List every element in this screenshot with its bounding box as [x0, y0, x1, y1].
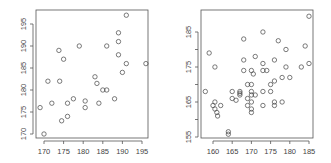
data-point [230, 89, 234, 93]
data-point [280, 75, 284, 79]
data-point [245, 96, 249, 100]
data-point [253, 54, 257, 58]
y-tick-label: 170 [19, 128, 28, 141]
data-point [249, 100, 253, 104]
data-point [57, 79, 61, 83]
data-point [59, 119, 63, 123]
data-point [38, 105, 42, 109]
y-tick-label: 190 [19, 40, 28, 53]
data-point [105, 44, 109, 48]
y-tick-label: 185 [19, 62, 28, 75]
x-tick-label: 165 [226, 147, 239, 156]
y-tick-label: 175 [184, 61, 193, 74]
data-point [276, 39, 280, 43]
x-tick-label: 175 [264, 147, 277, 156]
y-tick-label: 195 [19, 18, 28, 31]
data-point [93, 75, 97, 79]
y-tick-label: 155 [184, 131, 193, 144]
scatter-panel-1: 170175180185190195170175180185190195 [19, 10, 148, 156]
data-point [261, 103, 265, 107]
data-point [116, 31, 120, 35]
scatter-panel-2: 160165170175180185155165175185 [184, 10, 315, 156]
data-point [50, 101, 54, 105]
data-point [144, 61, 148, 65]
data-point [307, 14, 311, 18]
data-point [299, 65, 303, 69]
x-tick-label: 190 [116, 147, 129, 156]
data-point [261, 61, 265, 65]
data-point [272, 79, 276, 83]
data-point [112, 97, 116, 101]
x-tick-label: 170 [38, 147, 51, 156]
data-point [124, 61, 128, 65]
x-tick-label: 185 [97, 147, 110, 156]
y-tick-label: 185 [184, 26, 193, 39]
data-point [245, 103, 249, 107]
y-tick-label: 175 [19, 106, 28, 119]
data-point [42, 132, 46, 136]
data-point [83, 105, 87, 109]
data-point [303, 44, 307, 48]
data-point [242, 68, 246, 72]
data-point [261, 89, 265, 93]
x-tick-label: 170 [245, 147, 258, 156]
y-tick-label: 180 [19, 84, 28, 97]
data-point [95, 81, 99, 85]
data-point [203, 89, 207, 93]
x-tick-label: 180 [77, 147, 90, 156]
data-point [261, 30, 265, 34]
data-point [57, 48, 61, 52]
data-point [234, 98, 238, 102]
data-point [97, 101, 101, 105]
data-point [207, 51, 211, 55]
data-point [288, 75, 292, 79]
data-point [61, 57, 65, 61]
data-point [251, 72, 255, 76]
data-point [65, 114, 69, 118]
data-point [218, 103, 222, 107]
x-tick-label: 185 [303, 147, 316, 156]
plot-frame [201, 10, 313, 138]
data-point [213, 100, 217, 104]
data-point [46, 79, 50, 83]
x-tick-label: 180 [284, 147, 297, 156]
data-point [268, 89, 272, 93]
scatter-plots: 1701751801851901951701751801851901951601… [0, 0, 331, 163]
x-tick-label: 160 [207, 147, 220, 156]
data-point [116, 53, 120, 57]
y-tick-label: 165 [184, 96, 193, 109]
data-point [65, 101, 69, 105]
data-point [284, 47, 288, 51]
data-point [242, 37, 246, 41]
data-point [116, 39, 120, 43]
data-point [77, 44, 81, 48]
x-tick-label: 175 [57, 147, 70, 156]
data-point [124, 13, 128, 17]
data-point [307, 61, 311, 65]
data-point [213, 65, 217, 69]
data-point [268, 82, 272, 86]
plot-frame [36, 10, 148, 138]
x-tick-label: 195 [136, 147, 149, 156]
data-point [272, 58, 276, 62]
data-point [284, 65, 288, 69]
data-point [280, 100, 284, 104]
data-point [120, 70, 124, 74]
data-point [242, 58, 246, 62]
data-point [83, 99, 87, 103]
data-point [71, 97, 75, 101]
